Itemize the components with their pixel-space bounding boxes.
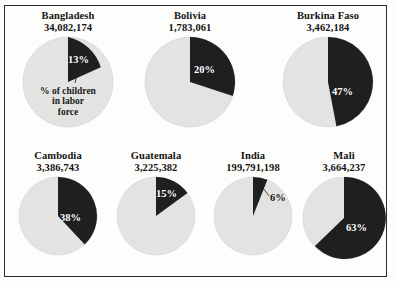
panel-title: Bangladesh (12, 10, 124, 22)
pie-slice-label: 38% (60, 212, 81, 223)
pie-chart-guatemala: 15% (116, 176, 196, 256)
pie-slice-label: 20% (194, 64, 215, 75)
pie-chart-burkina-faso: 47% (282, 36, 374, 128)
panel-value: 3,386,743 (8, 162, 108, 174)
pie-panel-bolivia: Bolivia 1,783,061 20% (134, 10, 246, 128)
pie-slice-label: 47% (332, 86, 353, 97)
pie-slice-label: 15% (156, 188, 177, 199)
pie-panel-burkina-faso: Burkina Faso 3,462,184 47% (272, 10, 384, 128)
panel-title: Cambodia (8, 150, 108, 162)
pie-svg (144, 36, 236, 128)
pie-svg (282, 36, 374, 128)
annotation-line-2: in labor (18, 96, 118, 107)
panel-value: 1,783,061 (134, 22, 246, 34)
pie-svg (302, 176, 386, 260)
annotation-line-1: % of children (18, 86, 118, 97)
panel-value: 3,462,184 (272, 22, 384, 34)
pie-chart-cambodia: 38% (18, 176, 98, 256)
panel-title: Burkina Faso (272, 10, 384, 22)
panel-value: 34,082,174 (12, 22, 124, 34)
panel-title: Guatemala (106, 150, 206, 162)
panel-value: 3,664,237 (294, 162, 394, 174)
pie-panel-bangladesh: Bangladesh 34,082,174 13% % of children … (12, 10, 124, 128)
panel-value: 3,225,382 (106, 162, 206, 174)
pie-labor-wedge (328, 37, 373, 126)
pie-panel-mali: Mali 3,664,237 63% (294, 150, 394, 260)
pie-slice-label: 63% (346, 222, 367, 233)
panel-value: 199,791,198 (198, 162, 308, 174)
annotation-line-3: force (18, 107, 118, 118)
panel-title: India (198, 150, 308, 162)
pie-panel-guatemala: Guatemala 3,225,382 15% (106, 150, 206, 256)
pie-svg (213, 176, 293, 256)
pie-panel-india: India 199,791,198 6% (198, 150, 308, 256)
figure-canvas: Bangladesh 34,082,174 13% % of children … (0, 0, 396, 285)
pie-chart-bangladesh: 13% % of children in labor force (22, 36, 114, 128)
pie-chart-mali: 63% (302, 176, 386, 260)
pie-svg (18, 176, 98, 256)
annotation-text: % of children in labor force (18, 86, 118, 118)
pie-slice-label: 6% (270, 192, 286, 203)
pie-chart-bolivia: 20% (144, 36, 236, 128)
panel-title: Mali (294, 150, 394, 162)
pie-chart-india: 6% (213, 176, 293, 256)
pie-panel-cambodia: Cambodia 3,386,743 38% (8, 150, 108, 256)
panel-title: Bolivia (134, 10, 246, 22)
